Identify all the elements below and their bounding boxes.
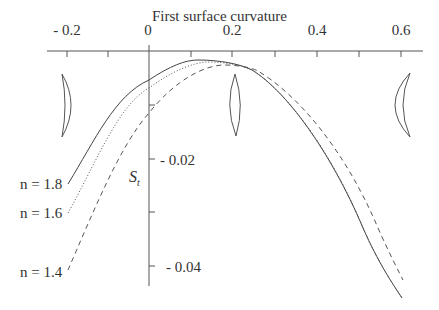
y-axis <box>149 45 155 286</box>
series-n14-dashed <box>68 65 403 280</box>
biconvex-lens-icon <box>230 74 241 136</box>
series-n18-solid <box>68 60 402 298</box>
plano-convex-lens-icon <box>62 74 71 137</box>
series-n16-dotted <box>68 62 402 298</box>
meniscus-lens-icon <box>395 73 410 137</box>
chart-plot <box>0 0 439 310</box>
x-axis <box>47 51 423 57</box>
